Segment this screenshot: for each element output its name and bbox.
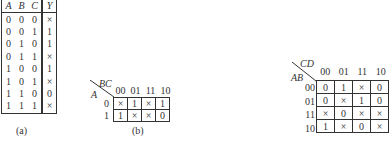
kmap3-col-label: 11	[143, 85, 158, 96]
kmap-cell: ×	[142, 110, 156, 122]
output-cell: ×	[42, 75, 57, 87]
kmap4-row-labels: 00 01 11 10	[301, 81, 315, 135]
input-cell: 1	[28, 100, 42, 113]
input-cell: 1	[15, 88, 28, 100]
caption-a: (a)	[16, 125, 27, 136]
kmap-row: 01×0	[317, 81, 389, 94]
kmap-cell: ×	[371, 120, 389, 133]
kmap-cell: 1	[317, 120, 335, 133]
input-cell: 0	[28, 38, 42, 50]
output-cell: 1	[42, 26, 57, 38]
output-cell: ×	[42, 100, 57, 113]
truth-table-row: 111×	[2, 100, 57, 113]
kmap3-col-label: 10	[158, 85, 173, 96]
kmap-cell: 0	[156, 110, 170, 122]
truth-table-row: 1001	[2, 63, 57, 75]
output-cell: 0	[42, 88, 57, 100]
kmap-row: 1×0×	[317, 120, 389, 133]
kmap-cell: ×	[335, 120, 353, 133]
kmap4-col-label: 01	[335, 66, 354, 77]
kmap3-col-label: 01	[128, 85, 143, 96]
kmap-cell: 0	[371, 81, 389, 94]
input-cell: 0	[2, 26, 16, 38]
header-c: C	[28, 0, 42, 13]
kmap-cell: ×	[371, 107, 389, 120]
input-cell: 0	[28, 63, 42, 75]
header-b: B	[15, 0, 28, 13]
input-cell: 1	[28, 75, 42, 87]
kmap4-col-label: 11	[353, 66, 372, 77]
kmap4-row-label: 00	[301, 81, 315, 95]
kmap3-col-var: BC	[99, 78, 112, 89]
input-cell: 1	[2, 88, 16, 100]
kmap-row: 1××0	[114, 110, 170, 122]
header-a: A	[2, 0, 16, 13]
input-cell: 0	[2, 13, 16, 26]
truth-table-row: 1100	[2, 88, 57, 100]
output-cell: 1	[42, 63, 57, 75]
kmap-cell: 0	[353, 120, 371, 133]
truth-table: A B C Y 000×00110101011×1001101×1100111×	[1, 0, 57, 114]
header-y: Y	[42, 0, 57, 13]
input-cell: 0	[28, 13, 42, 26]
output-cell: 1	[42, 38, 57, 50]
truth-table-row: 101×	[2, 75, 57, 87]
kmap-cell: 1	[128, 98, 142, 110]
kmap-cell: ×	[317, 107, 335, 120]
kmap-cell: 0	[371, 94, 389, 107]
kmap4-col-var: CD	[300, 58, 314, 69]
kmap3-row-label: 0	[104, 98, 109, 109]
input-cell: 0	[15, 26, 28, 38]
kmap4-col-labels: 00 01 11 10	[316, 66, 392, 77]
truth-table-row: 0101	[2, 38, 57, 50]
truth-table-header: A B C Y	[2, 0, 57, 13]
input-cell: 1	[2, 100, 16, 113]
kmap-cell: 0	[335, 107, 353, 120]
input-cell: 1	[2, 75, 16, 87]
kmap4-row-label: 01	[301, 95, 315, 109]
input-cell: 1	[28, 26, 42, 38]
kmap-cell: 1	[114, 110, 128, 122]
kmap-cell: ×	[353, 107, 371, 120]
kmap4-col-label: 10	[372, 66, 391, 77]
input-cell: 0	[2, 38, 16, 50]
kmap3-col-labels: 00 01 11 10	[113, 85, 173, 96]
kmap3-col-label: 00	[113, 85, 128, 96]
kmap4-grid: 01×00×10×0××1×0×	[316, 80, 389, 133]
kmap3-row-var: A	[91, 89, 97, 100]
kmap-row: ×1×1	[114, 98, 170, 110]
input-cell: 1	[2, 63, 16, 75]
input-cell: 1	[15, 100, 28, 113]
kmap-cell: ×	[114, 98, 128, 110]
kmap-cell: ×	[353, 81, 371, 94]
input-cell: 0	[2, 51, 16, 63]
truth-table-row: 000×	[2, 13, 57, 26]
kmap-cell: 0	[317, 81, 335, 94]
kmap-cell: ×	[142, 98, 156, 110]
kmap-cell: 1	[353, 94, 371, 107]
input-cell: 0	[28, 88, 42, 100]
kmap-cell: 0	[317, 94, 335, 107]
kmap3-grid: ×1×11××0	[113, 97, 170, 122]
kmap-cell: ×	[128, 110, 142, 122]
input-cell: 1	[15, 51, 28, 63]
kmap-cell: 1	[335, 81, 353, 94]
input-cell: 0	[15, 63, 28, 75]
input-cell: 0	[15, 13, 28, 26]
output-cell: ×	[42, 13, 57, 26]
output-cell: ×	[42, 51, 57, 63]
kmap4-row-label: 10	[301, 122, 315, 136]
kmap-cell: 1	[156, 98, 170, 110]
truth-table-row: 011×	[2, 51, 57, 63]
kmap3-row-label: 1	[104, 110, 109, 121]
input-cell: 1	[15, 38, 28, 50]
truth-table-row: 0011	[2, 26, 57, 38]
caption-b: (b)	[132, 125, 144, 136]
input-cell: 1	[28, 51, 42, 63]
kmap-cell: ×	[335, 94, 353, 107]
kmap4-col-label: 00	[316, 66, 335, 77]
kmap4-row-label: 11	[301, 108, 315, 122]
kmap-row: 0×10	[317, 94, 389, 107]
kmap-row: ×0××	[317, 107, 389, 120]
input-cell: 0	[15, 75, 28, 87]
